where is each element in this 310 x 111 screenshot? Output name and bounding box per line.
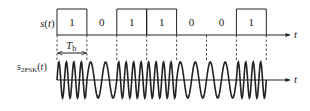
- bit-boundaries: [57, 35, 266, 62]
- bit-labels: 1011001: [69, 16, 254, 28]
- bit-period-indicator: Tb: [58, 39, 86, 53]
- fsk-signal-label: s2FSK(t): [17, 61, 47, 74]
- bit-label: 0: [99, 16, 105, 28]
- bit-label: 1: [249, 16, 255, 28]
- signal-time-axis-label: t: [294, 28, 298, 40]
- bit-label: 0: [189, 16, 195, 28]
- bit-period-label: Tb: [66, 39, 76, 53]
- bit-label: 1: [129, 16, 135, 28]
- bit-label: 1: [159, 16, 165, 28]
- signal-label: s(t): [40, 17, 55, 30]
- fsk-time-axis-label: t: [294, 73, 298, 85]
- bit-label: 1: [69, 16, 75, 28]
- bit-label: 0: [219, 16, 225, 28]
- 2fsk-diagram: s(t) t 1011001 Tb s2FSK(t) t: [0, 0, 310, 111]
